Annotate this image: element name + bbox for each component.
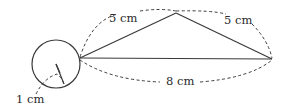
label-side-right: 5 cm — [224, 13, 252, 27]
dimension-arc-base-left — [80, 60, 160, 82]
radius-dimension-arc — [36, 74, 64, 94]
label-radius: 1 cm — [16, 92, 44, 106]
dimension-arc-right-lower — [252, 24, 272, 58]
diagram-canvas: 5 cm 5 cm 8 cm 1 cm — [0, 0, 288, 112]
label-side-left: 5 cm — [109, 11, 137, 25]
radius-line-inner — [56, 64, 60, 73]
dimension-arc-left-upper — [140, 10, 176, 12]
dimension-arc-base-right — [200, 60, 272, 82]
triangle-base — [80, 58, 272, 59]
label-base: 8 cm — [166, 74, 194, 88]
dimension-arc-right-upper — [176, 11, 226, 14]
